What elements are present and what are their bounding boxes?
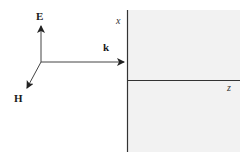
z-axis-label: z <box>227 83 231 93</box>
x-axis-label: x <box>116 16 120 26</box>
k-label: k <box>103 42 109 53</box>
e-label: E <box>36 11 43 22</box>
h-vector-arrow <box>27 62 41 88</box>
diagram-svg <box>0 0 250 158</box>
h-label: H <box>14 93 23 104</box>
diagram-canvas: E k H x z <box>0 0 250 158</box>
